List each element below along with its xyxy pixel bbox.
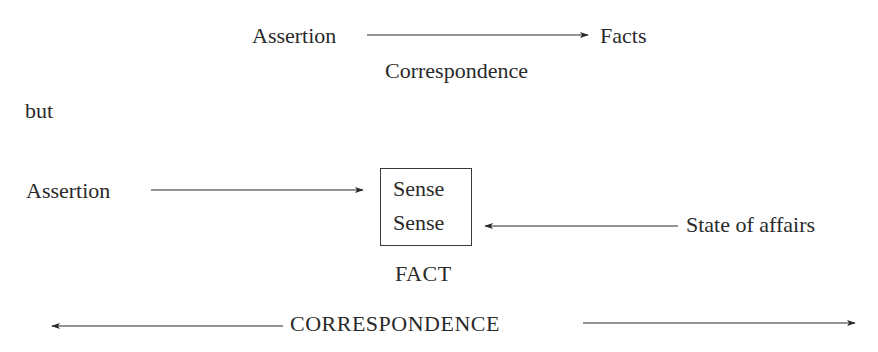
sense-line-2: Sense	[393, 212, 444, 234]
state-of-affairs-label: State of affairs	[686, 214, 815, 236]
top-assertion-label: Assertion	[252, 25, 336, 47]
top-correspondence-label: Correspondence	[385, 60, 528, 82]
top-facts-label: Facts	[600, 25, 646, 47]
correspondence-caps-label: CORRESPONDENCE	[290, 313, 500, 335]
connector-text: but	[25, 100, 53, 122]
sense-line-1: Sense	[393, 178, 444, 200]
fact-label: FACT	[395, 263, 452, 285]
bottom-assertion-label: Assertion	[26, 180, 110, 202]
